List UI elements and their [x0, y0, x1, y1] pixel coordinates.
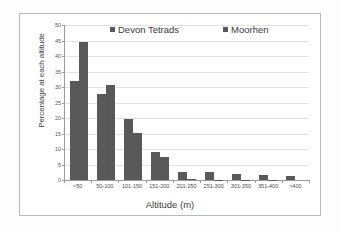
y-tick-label: 25: [55, 100, 61, 106]
x-tick-mark: [173, 180, 174, 183]
x-tick-label: 50-100: [91, 183, 118, 189]
y-tick-label: 0: [58, 177, 61, 183]
x-tick-label: 101-150: [118, 183, 145, 189]
x-tick-label: 351-400: [255, 183, 282, 189]
bar-group: [228, 25, 255, 180]
bar-group: [201, 25, 228, 180]
bar-group: [173, 25, 200, 180]
bar-group: [255, 25, 282, 180]
x-tick-mark: [64, 180, 65, 183]
bar-group: [282, 25, 309, 180]
y-tick-label: 10: [55, 146, 61, 152]
bar-moorhen: [187, 179, 196, 180]
y-axis-title: Percentage at each altitude: [37, 21, 46, 141]
figure-root: Percentage at each altitude Devon Tetrad…: [0, 0, 342, 232]
bar-moorhen: [106, 85, 115, 180]
y-tick-label: 45: [55, 38, 61, 44]
bar-moorhen: [79, 42, 88, 180]
x-tick-mark: [282, 180, 283, 183]
x-tick-label: 201-250: [173, 183, 200, 189]
x-tick-mark: [91, 180, 92, 183]
y-tick-label: 40: [55, 53, 61, 59]
bars-layer: [65, 25, 309, 180]
x-tick-label: 301-350: [227, 183, 254, 189]
x-tick-label: >400: [282, 183, 309, 189]
x-tick-label: 151-200: [146, 183, 173, 189]
bar-devon-tetrads: [205, 172, 214, 180]
x-tick-mark: [255, 180, 256, 183]
x-tick-mark: [227, 180, 228, 183]
x-tick-label: 251-300: [200, 183, 227, 189]
bar-group: [65, 25, 92, 180]
y-tick-label: 50: [55, 22, 61, 28]
bar-group: [146, 25, 173, 180]
bar-devon-tetrads: [70, 81, 79, 180]
bar-devon-tetrads: [286, 176, 295, 180]
bar-devon-tetrads: [124, 119, 133, 180]
bar-moorhen: [160, 157, 169, 180]
plot-area: 05101520253035404550: [64, 25, 309, 181]
bar-devon-tetrads: [97, 94, 106, 180]
chart-frame: Percentage at each altitude Devon Tetrad…: [19, 13, 321, 216]
y-tick-label: 35: [55, 69, 61, 75]
bar-devon-tetrads: [151, 152, 160, 180]
y-tick-label: 30: [55, 84, 61, 90]
x-tick-label: <50: [64, 183, 91, 189]
y-tick-label: 20: [55, 115, 61, 121]
y-tick-label: 5: [58, 162, 61, 168]
y-tick-label: 15: [55, 131, 61, 137]
bar-devon-tetrads: [178, 172, 187, 180]
x-axis-labels: <5050-100101-150151-200201-250251-300301…: [64, 183, 309, 189]
x-tick-mark: [200, 180, 201, 183]
bar-devon-tetrads: [259, 175, 268, 180]
bar-devon-tetrads: [232, 174, 241, 180]
x-axis-title: Altitude (m): [20, 199, 320, 210]
bar-group: [119, 25, 146, 180]
bar-moorhen: [133, 133, 142, 180]
x-tick-mark: [309, 180, 310, 183]
x-tick-mark: [118, 180, 119, 183]
x-tick-mark: [146, 180, 147, 183]
bar-group: [92, 25, 119, 180]
